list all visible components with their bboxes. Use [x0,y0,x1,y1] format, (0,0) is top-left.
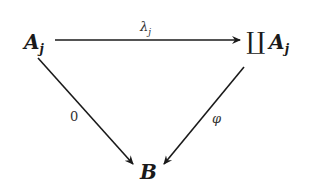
node-target-base: B [140,160,157,184]
commutative-diagram: Aj ∐Aj B λj 0 φ [0,0,321,185]
node-coproduct-sub: j [285,42,289,56]
label-top-base: λ [140,19,148,34]
label-top: λj [140,20,151,37]
node-source-sub: j [40,42,44,56]
arrow-right [164,67,244,164]
node-coproduct-base: A [269,30,285,54]
arrow-left [38,58,133,164]
coproduct-symbol: ∐ [246,27,265,55]
label-top-sub: j [148,27,151,37]
node-source-base: A [24,30,40,54]
label-right: φ [212,112,221,125]
node-source: Aj [24,32,44,55]
arrows-layer [0,0,321,185]
label-left: 0 [70,110,78,123]
node-target: B [140,162,157,182]
node-coproduct: ∐Aj [246,29,289,55]
